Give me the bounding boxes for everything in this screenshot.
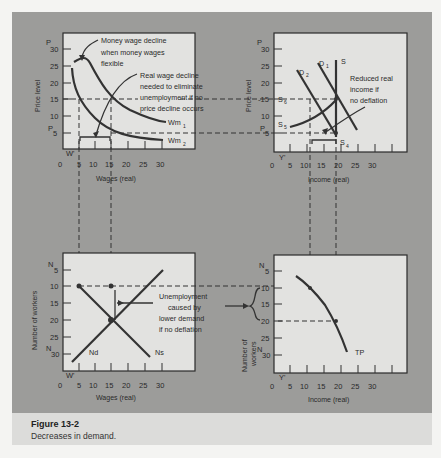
svg-text:0: 0: [58, 160, 62, 169]
svg-text:4: 4: [346, 143, 349, 149]
svg-text:caused by: caused by: [168, 303, 201, 312]
svg-text:Ns: Ns: [155, 348, 164, 357]
svg-text:lower demand: lower demand: [159, 314, 204, 323]
svg-text:20: 20: [334, 382, 342, 391]
svg-text:20: 20: [50, 316, 58, 325]
svg-text:20: 20: [334, 161, 342, 170]
svg-text:5: 5: [284, 124, 287, 130]
svg-text:1: 1: [183, 123, 186, 129]
svg-text:10: 10: [261, 284, 269, 293]
svg-text:25: 25: [139, 160, 147, 169]
x-axis-label: Income (real): [308, 396, 349, 404]
y-axis-label-line2: workers: [250, 341, 257, 367]
svg-text:25: 25: [261, 334, 269, 343]
svg-text:5: 5: [288, 161, 292, 170]
svg-text:S: S: [341, 57, 346, 66]
svg-text:Y': Y': [279, 373, 286, 382]
svg-text:10: 10: [300, 382, 308, 391]
svg-text:2: 2: [183, 141, 186, 147]
svg-text:25: 25: [351, 161, 359, 170]
svg-text:N: N: [259, 261, 264, 270]
svg-text:10: 10: [89, 381, 97, 390]
svg-text:1: 1: [326, 63, 329, 69]
y-axis-label-line1: Number of: [241, 339, 248, 372]
svg-text:Unemployment: Unemployment: [159, 292, 207, 301]
svg-text:10: 10: [50, 112, 58, 121]
svg-text:2: 2: [306, 72, 309, 78]
plot-area: [63, 253, 195, 371]
svg-text:25: 25: [50, 62, 58, 71]
svg-text:S: S: [278, 120, 283, 129]
svg-text:Reduced real: Reduced real: [350, 74, 393, 83]
svg-text:20: 20: [50, 79, 58, 88]
svg-text:Real wage decline: Real wage decline: [140, 71, 199, 80]
svg-text:10: 10: [261, 112, 269, 121]
svg-text:30: 30: [368, 382, 376, 391]
svg-text:6: 6: [284, 99, 287, 105]
svg-text:no deflation: no deflation: [350, 96, 387, 105]
svg-text:30: 30: [50, 45, 58, 54]
svg-text:5: 5: [288, 382, 292, 391]
svg-text:15: 15: [317, 382, 325, 391]
svg-text:Nd: Nd: [89, 348, 98, 357]
figure-caption: Decreases in demand.: [31, 431, 116, 441]
svg-text:15: 15: [50, 95, 58, 104]
svg-text:5: 5: [265, 129, 269, 138]
svg-text:Y': Y': [279, 153, 286, 162]
svg-text:0: 0: [58, 381, 62, 390]
svg-text:30: 30: [368, 161, 376, 170]
y-axis-label: Number of workers: [31, 290, 38, 350]
svg-text:-15: -15: [258, 95, 269, 104]
x-axis-label: Wages (real): [96, 394, 136, 402]
svg-text:20: 20: [261, 79, 269, 88]
svg-text:Money wage decline: Money wage decline: [101, 36, 167, 45]
svg-text:Wm: Wm: [168, 136, 181, 145]
plot-area: [274, 255, 407, 373]
svg-text:when money wages: when money wages: [100, 48, 165, 57]
svg-text:10: 10: [50, 282, 58, 291]
svg-text:5: 5: [265, 267, 269, 276]
svg-text:0: 0: [270, 382, 274, 391]
x-axis-label: Wages (real): [96, 175, 136, 183]
svg-text:0: 0: [270, 161, 274, 170]
svg-text:5: 5: [77, 381, 81, 390]
svg-text:needed to eliminate: needed to eliminate: [140, 82, 203, 91]
svg-text:15: 15: [261, 300, 269, 309]
svg-text:W': W': [66, 149, 75, 158]
svg-text:25: 25: [50, 333, 58, 342]
svg-text:20: 20: [122, 160, 130, 169]
svg-text:15: 15: [105, 381, 113, 390]
svg-text:unemployment if no: unemployment if no: [140, 93, 203, 102]
svg-text:price decline occurs: price decline occurs: [140, 104, 204, 113]
svg-text:S: S: [340, 138, 345, 147]
y-axis-label: Price level: [34, 79, 41, 112]
svg-text:30: 30: [261, 45, 269, 54]
svg-text:20: 20: [122, 381, 130, 390]
panel-top-left: P 30 25 20 15 10 P 5 Price level W' 0 5 …: [34, 33, 278, 290]
four-quadrant-diagram: .box { fill:#e2e2e0; stroke:#2a2a2a; str…: [0, 0, 441, 458]
svg-text:15: 15: [105, 160, 113, 169]
svg-text:30: 30: [51, 350, 59, 359]
panel-bottom-left: N 5 10 15 20 25 N 30 Number of workers W…: [31, 253, 278, 402]
svg-text:25: 25: [139, 381, 147, 390]
svg-text:30: 30: [262, 351, 270, 360]
svg-text:S: S: [278, 95, 283, 104]
svg-text:if no deflation: if no deflation: [159, 325, 202, 334]
svg-text:5: 5: [54, 266, 58, 275]
svg-text:30: 30: [156, 160, 164, 169]
svg-text:25: 25: [261, 62, 269, 71]
svg-text:5: 5: [53, 129, 57, 138]
svg-text:15: 15: [50, 299, 58, 308]
svg-text:20: 20: [261, 317, 269, 326]
x-axis-label: Income (real): [308, 176, 349, 184]
svg-text:15: 15: [317, 161, 325, 170]
svg-text:D: D: [319, 59, 324, 68]
figure-number: Figure 13-2: [31, 419, 79, 429]
svg-text:income if: income if: [350, 85, 379, 94]
svg-text:Wm: Wm: [168, 118, 181, 127]
svg-text:D: D: [299, 68, 304, 77]
plot-area: [274, 33, 407, 152]
panel-bottom-right: N 5 10 15 20 25 N 30 Number of workers Y…: [241, 255, 407, 404]
svg-text:flexible: flexible: [101, 59, 123, 68]
svg-text:TP: TP: [355, 348, 364, 357]
